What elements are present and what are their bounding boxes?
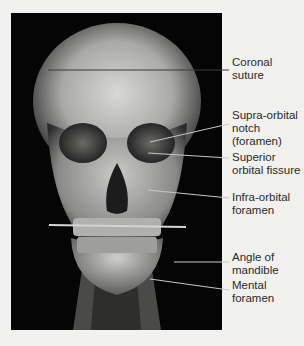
label-angle-of-mandible: Angle of mandible (232, 251, 279, 277)
label-supra-orbital-notch: Supra-orbital notch (foramen) (232, 109, 298, 148)
leader-line-infra-orbital-foramen (148, 190, 229, 198)
label-mental-foramen: Mental foramen (232, 279, 274, 305)
leader-line-supra-orbital-notch (150, 124, 229, 142)
leader-line-superior-orbital-fissure (148, 153, 229, 158)
label-coronal-suture: Coronal suture (232, 56, 272, 82)
leader-line-mental-foramen (150, 279, 229, 290)
label-superior-orbital-fissure: Superior orbital fissure (232, 151, 300, 177)
label-infra-orbital-foramen: Infra-orbital foramen (232, 191, 290, 217)
